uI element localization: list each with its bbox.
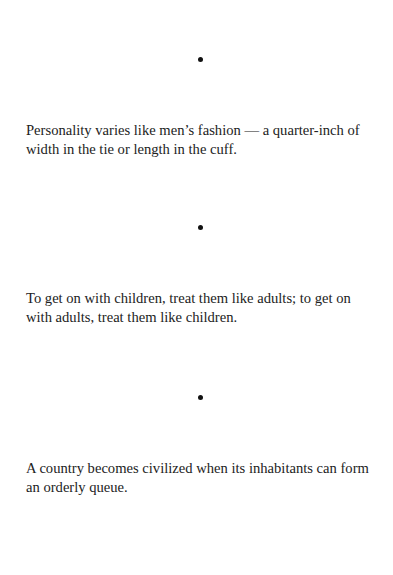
quote-paragraph: Personality varies like men’s fashion — … (26, 121, 376, 159)
bullet-dot-icon (198, 57, 203, 62)
bullet-dot-icon (198, 395, 203, 400)
bullet-dot-icon (198, 225, 203, 230)
section-separator (0, 225, 393, 231)
section-separator (0, 57, 393, 63)
quote-paragraph: To get on with children, treat them like… (26, 289, 376, 327)
book-page: Personality varies like men’s fashion — … (0, 0, 393, 575)
section-separator (0, 395, 393, 401)
quote-paragraph: A country becomes civilized when its inh… (26, 459, 376, 497)
